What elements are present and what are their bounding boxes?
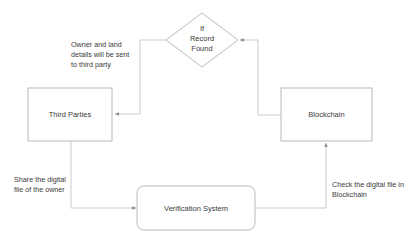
decision-label-line-3: Found <box>191 44 212 53</box>
third-parties-node: Third Parties <box>28 88 112 141</box>
blockchain-label: Blockchain <box>308 110 344 119</box>
decision-label-line-2: Record <box>190 34 214 43</box>
connector-verification-to-blockchain <box>255 143 326 208</box>
annotation-decision-to-third-parties: Owner and land details will be sent to t… <box>71 40 129 69</box>
third-parties-label: Third Parties <box>49 110 92 119</box>
annotation-line: details will be sent <box>71 50 129 59</box>
annotation-line: Owner and land <box>71 40 122 49</box>
annotation-line: file of the owner <box>14 185 65 194</box>
annotation-line: to third party <box>71 60 111 69</box>
verification-system-label: Verification System <box>164 204 228 213</box>
flow-diagram: If Record Found Third Parties Blockchain… <box>0 0 417 241</box>
connector-blockchain-to-decision <box>240 40 281 115</box>
annotation-verification-to-blockchain: Check the digital file in Blockchain <box>332 180 404 199</box>
verification-system-node: Verification System <box>137 186 255 230</box>
connector-third-parties-to-verification <box>71 141 136 208</box>
annotation-third-parties-to-verification: Share the digital file of the owner <box>14 175 66 194</box>
decision-node: If Record Found <box>166 13 238 67</box>
annotation-line: Share the digital <box>14 175 66 184</box>
blockchain-node: Blockchain <box>281 88 372 141</box>
annotation-line: Blockchain <box>332 190 367 199</box>
annotation-line: Check the digital file in <box>332 180 404 189</box>
